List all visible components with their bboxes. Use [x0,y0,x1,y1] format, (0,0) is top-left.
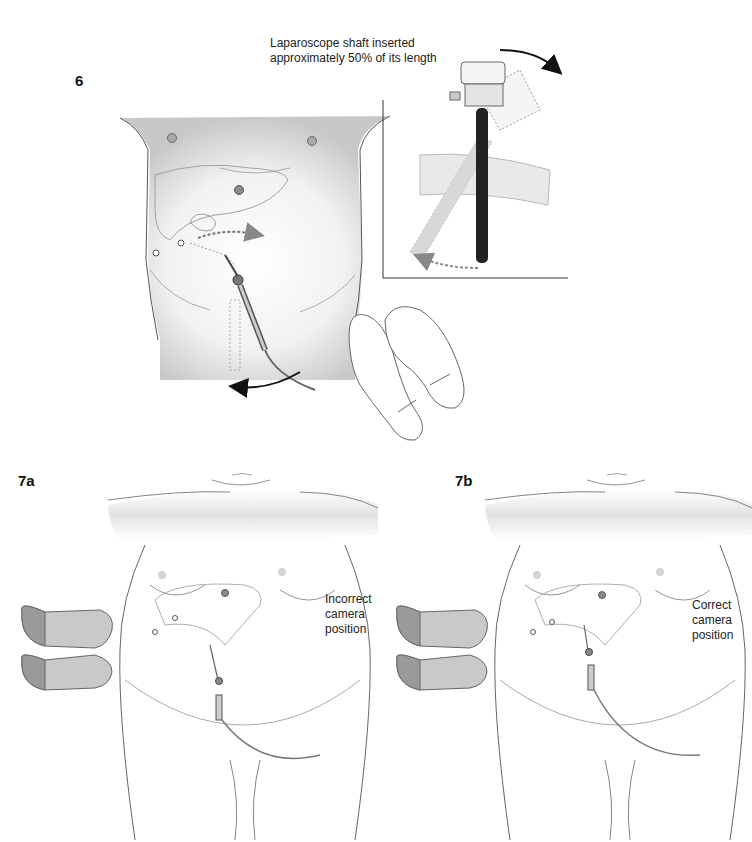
nipple-left [168,134,177,143]
illustration-canvas [0,0,752,842]
port-marker [235,186,244,195]
figure-7a-caption: Incorrect camera position [325,592,372,637]
figure-7b-label: 7b [455,472,473,489]
caption-line-3: position [692,628,733,643]
figure-7b-footprints [396,606,487,690]
figure-7b-caption: Correct camera position [692,598,733,643]
figure-7a-footprints [21,606,112,690]
caption-line-2: camera [692,613,733,628]
figure-7b-body [485,474,752,841]
caption-line-2: camera [325,607,372,622]
port-marker [178,240,184,246]
laparoscope-shaft [476,108,488,263]
figure-6-inset [383,50,568,278]
caption-line-3: position [325,622,372,637]
figure-7a-body [108,474,378,841]
nipple-right [308,137,317,146]
figure-7a-label: 7a [18,472,35,489]
port-marker [153,250,159,256]
figure-6-footprints [349,307,464,441]
caption-line-1: Incorrect [325,592,372,607]
caption-line-1: Correct [692,598,733,613]
